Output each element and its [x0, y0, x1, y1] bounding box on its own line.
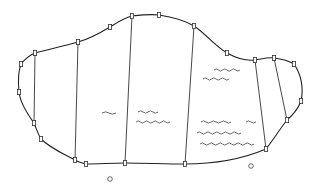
- boundary-marker-icon: [192, 23, 195, 28]
- reference-points: [108, 164, 254, 182]
- divider-line: [185, 26, 194, 164]
- boundary-marker-icon: [76, 39, 79, 44]
- boundary-marker-icon: [157, 12, 160, 17]
- boundary-marker-icon: [108, 24, 111, 29]
- wave-icon: [203, 78, 229, 80]
- boundary-marker-icon: [292, 61, 295, 66]
- divider-line: [125, 16, 132, 163]
- boundary-marker-icon: [183, 161, 186, 166]
- parcel-outline: [18, 15, 302, 164]
- wave-icon: [138, 111, 158, 113]
- boundary-markers: [17, 12, 302, 166]
- strip-dividers: [34, 16, 287, 164]
- reference-circle-icon: [108, 177, 113, 182]
- boundary-marker-icon: [299, 98, 302, 103]
- boundary-marker-icon: [17, 89, 20, 94]
- reference-circle-icon: [249, 164, 254, 169]
- boundary-marker-icon: [39, 136, 42, 141]
- divider-line: [34, 53, 35, 123]
- divider-line: [274, 58, 287, 120]
- boundary-marker-icon: [32, 120, 35, 125]
- boundary-marker-icon: [272, 55, 275, 60]
- boundary-marker-icon: [253, 57, 256, 62]
- wave-icon: [201, 121, 231, 123]
- water-symbols: [102, 69, 256, 145]
- boundary-marker-icon: [264, 146, 267, 151]
- wave-icon: [200, 143, 254, 145]
- boundary-marker-icon: [84, 161, 87, 166]
- boundary-marker-icon: [73, 157, 76, 162]
- wave-icon: [102, 112, 116, 114]
- divider-line: [75, 42, 78, 160]
- wave-icon: [246, 121, 256, 123]
- boundary-marker-icon: [123, 160, 126, 165]
- wave-icon: [197, 132, 241, 134]
- boundary-marker-icon: [33, 50, 36, 55]
- boundary-marker-icon: [19, 61, 22, 66]
- wave-icon: [214, 69, 240, 71]
- divider-line: [255, 60, 266, 149]
- parcel-diagram: [0, 0, 320, 193]
- boundary-marker-icon: [225, 50, 228, 55]
- wave-icon: [136, 121, 170, 123]
- boundary-marker-icon: [285, 117, 288, 122]
- boundary-marker-icon: [130, 13, 133, 18]
